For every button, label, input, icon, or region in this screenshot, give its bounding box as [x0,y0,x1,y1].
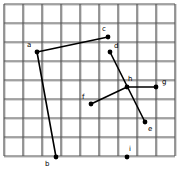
point-c [106,35,111,40]
diagram-canvas [0,0,182,177]
grid-point-diagram: abcdefghi [0,0,182,177]
point-label-i: i [129,146,131,153]
point-label-b: b [45,161,49,168]
point-h [125,85,130,90]
point-i [125,155,130,160]
point-label-e: e [148,126,152,133]
point-label-h: h [128,76,132,83]
segment-a-c [37,37,108,52]
point-e [143,120,148,125]
point-d [108,50,113,55]
point-b [54,155,59,160]
grid-major-lines [4,4,175,156]
point-label-g: g [162,79,166,86]
segment-f-h [91,87,127,104]
point-label-f: f [82,94,84,101]
point-f [89,102,94,107]
point-label-a: a [27,42,31,49]
segment-a-b [37,52,56,157]
point-label-d: d [114,43,118,50]
point-label-c: c [102,26,106,33]
point-a [35,50,40,55]
point-g [154,85,159,90]
